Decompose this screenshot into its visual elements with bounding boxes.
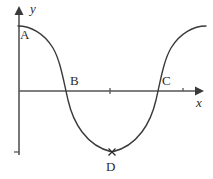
- curve-path: [18, 26, 206, 152]
- x-axis: [19, 87, 204, 96]
- point-label-a: A: [20, 28, 29, 41]
- graph-canvas: [0, 0, 213, 179]
- graph-figure: y x A B C D: [0, 0, 213, 179]
- y-axis-arrow-icon: [15, 6, 24, 15]
- point-label-c: C: [162, 74, 171, 87]
- point-label-b: B: [70, 74, 79, 87]
- x-axis-label: x: [196, 96, 202, 109]
- point-label-d: D: [106, 160, 115, 173]
- y-axis-label: y: [30, 2, 36, 15]
